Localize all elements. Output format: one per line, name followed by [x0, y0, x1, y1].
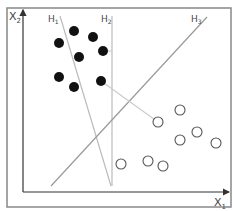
open-point — [143, 156, 153, 166]
hyperplane-label-h3: H3 — [191, 14, 202, 25]
class-filled-points — [54, 26, 108, 92]
filled-point — [88, 32, 98, 42]
open-point — [175, 135, 185, 145]
filled-point — [69, 82, 79, 92]
y-axis-label: X2 — [9, 10, 21, 25]
filled-point — [54, 38, 64, 48]
hyperplane-h1 — [60, 16, 111, 186]
open-point — [116, 159, 126, 169]
open-point — [153, 117, 163, 127]
open-point — [158, 161, 168, 171]
hyperplane-label-h1: H1 — [48, 14, 59, 25]
hyperplane-label-h2: H2 — [101, 14, 112, 25]
outer-frame — [7, 8, 231, 207]
connector-lines — [101, 51, 158, 122]
filled-point — [69, 26, 79, 36]
filled-point — [98, 46, 108, 56]
class-open-points — [116, 105, 221, 171]
open-point — [175, 105, 185, 115]
open-point — [192, 127, 202, 137]
filled-point — [54, 72, 64, 82]
svm-hyperplane-diagram: X2 X1 H1H2H3 — [0, 0, 233, 211]
x-axis-label: X1 — [214, 196, 226, 211]
filled-point — [96, 76, 106, 86]
connector-line — [101, 81, 158, 122]
filled-point — [74, 52, 84, 62]
hyperplane-labels: H1H2H3 — [48, 14, 202, 25]
open-point — [211, 138, 221, 148]
